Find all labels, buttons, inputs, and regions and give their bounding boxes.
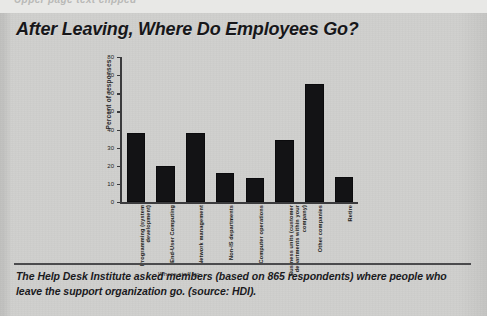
bar xyxy=(335,177,353,202)
clipped-page-top-strip: Upper page text clipped xyxy=(0,0,487,13)
x-category-label: Business units (customer departments wit… xyxy=(288,205,307,279)
x-axis-category-labels: Programming (system development)End-User… xyxy=(121,205,359,277)
x-category-label: Programming (system development) xyxy=(139,205,152,279)
bar xyxy=(246,178,264,202)
y-tick-label: 70 xyxy=(107,72,114,78)
y-tick-mark xyxy=(117,130,121,131)
y-tick-mark xyxy=(117,184,121,185)
x-category-label: Retire xyxy=(347,205,353,279)
y-tick-label: 20 xyxy=(107,163,114,169)
plot-area xyxy=(121,57,359,202)
y-tick-mark xyxy=(117,166,121,167)
x-category-label: Computer operations xyxy=(258,205,264,279)
y-tick-label: 50 xyxy=(107,108,114,114)
bar xyxy=(275,140,293,202)
y-tick-mark xyxy=(117,111,121,112)
y-tick-mark xyxy=(117,93,121,94)
x-category-label: End-User Computing xyxy=(169,205,175,279)
article-page: After Leaving, Where Do Employees Go? Pe… xyxy=(0,13,487,316)
bar xyxy=(156,166,174,202)
caption-divider xyxy=(14,263,471,265)
x-category-label: Other companies xyxy=(317,205,323,279)
bar-chart: Percent of responses 01020304050607080 P… xyxy=(96,35,386,280)
y-axis-tick-labels: 01020304050607080 xyxy=(96,57,118,201)
x-category-label: Network management xyxy=(198,205,204,279)
x-category-label: Non-IS departments xyxy=(228,205,234,279)
bar xyxy=(127,133,145,202)
y-tick-mark xyxy=(117,148,121,149)
bar xyxy=(186,133,204,202)
bar xyxy=(216,173,234,202)
bar xyxy=(305,84,323,202)
y-tick-label: 40 xyxy=(107,127,114,133)
y-tick-mark xyxy=(117,75,121,76)
y-tick-label: 0 xyxy=(111,199,114,205)
y-tick-label: 10 xyxy=(107,181,114,187)
y-tick-label: 60 xyxy=(107,90,114,96)
figure-caption: The Help Desk Institute asked members (b… xyxy=(16,269,468,298)
x-axis-line xyxy=(120,202,358,204)
clipped-text: Upper page text clipped xyxy=(14,0,137,5)
y-tick-label: 30 xyxy=(107,145,114,151)
y-tick-label: 80 xyxy=(107,54,114,60)
y-tick-mark xyxy=(117,57,121,58)
